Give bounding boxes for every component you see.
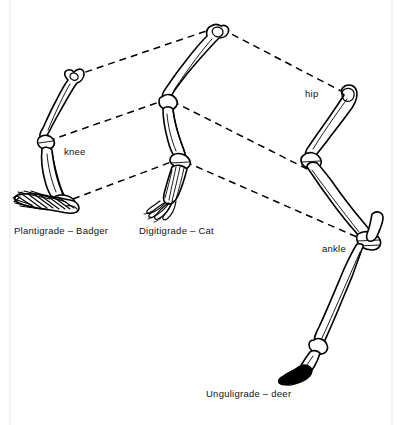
- caption-plantigrade-badger: Plantigrade – Badger: [14, 225, 108, 236]
- caption-unguligrade-deer: Unguligrade – deer: [206, 388, 291, 399]
- caption-digitigrade-cat: Digitigrade – Cat: [139, 225, 214, 236]
- badger-limb-skeleton: [13, 69, 84, 213]
- deer-calcaneum: [367, 212, 383, 241]
- deer-limb-skeleton: [278, 85, 383, 385]
- deer-cannon-bone: [314, 244, 363, 345]
- cat-toes: [144, 201, 176, 222]
- annotation-hip: hip: [305, 88, 318, 99]
- deer-tibia: [307, 162, 373, 242]
- skeleton-diagram-canvas: Plantigrade – Badger Digitigrade – Cat U…: [0, 0, 402, 425]
- limb-posture-figure: Plantigrade – Badger Digitigrade – Cat U…: [0, 0, 402, 425]
- figure-text-layer: Plantigrade – Badger Digitigrade – Cat U…: [14, 88, 346, 399]
- cat-femur: [162, 25, 228, 101]
- deer-cannon-shaft-line: [322, 252, 360, 338]
- annotation-knee: knee: [64, 146, 86, 157]
- annotation-ankle: ankle: [322, 243, 346, 254]
